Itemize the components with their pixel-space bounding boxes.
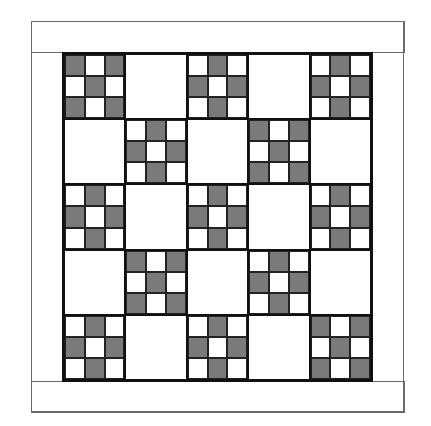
quilt-top-border-band [31, 21, 405, 53]
light-patch [85, 206, 105, 227]
dark-patch [311, 206, 331, 227]
dark-patch [269, 141, 289, 162]
light-patch [146, 293, 166, 314]
dark-patch [166, 293, 186, 314]
dark-patch [146, 120, 166, 141]
dark-patch [85, 358, 105, 379]
light-patch [208, 337, 228, 358]
dark-patch [350, 206, 370, 227]
plain-block [310, 119, 371, 184]
light-patch [85, 55, 105, 76]
dark-patch [85, 316, 105, 337]
nine-patch-block-plus [64, 315, 125, 380]
light-patch [126, 162, 146, 183]
plain-block [248, 184, 309, 249]
light-patch [208, 206, 228, 227]
dark-patch [126, 251, 146, 272]
light-patch [350, 55, 370, 76]
light-patch [188, 185, 208, 206]
light-patch [289, 251, 309, 272]
dark-patch [330, 337, 350, 358]
light-patch [65, 76, 85, 97]
quilt-block-grid [62, 52, 373, 382]
light-patch [311, 228, 331, 249]
plain-block [187, 250, 248, 315]
light-patch [227, 358, 247, 379]
dark-patch [208, 185, 228, 206]
nine-patch-block-plus [187, 315, 248, 380]
dark-patch [350, 316, 370, 337]
nine-patch-block-plus [187, 184, 248, 249]
dark-patch [330, 97, 350, 118]
nine-patch-block-x [64, 54, 125, 119]
light-patch [350, 97, 370, 118]
nine-patch-block-plus [187, 54, 248, 119]
light-patch [105, 358, 125, 379]
dark-patch [105, 206, 125, 227]
light-patch [289, 293, 309, 314]
dark-patch [65, 337, 85, 358]
plain-block [310, 250, 371, 315]
quilt-bottom-border-band [31, 381, 405, 413]
light-patch [350, 337, 370, 358]
plain-block [64, 250, 125, 315]
dark-patch [311, 76, 331, 97]
dark-patch [330, 228, 350, 249]
dark-patch [105, 55, 125, 76]
light-patch [146, 251, 166, 272]
dark-patch [65, 55, 85, 76]
light-patch [330, 358, 350, 379]
dark-patch [227, 337, 247, 358]
dark-patch [227, 76, 247, 97]
dark-patch [166, 141, 186, 162]
dark-patch [350, 76, 370, 97]
nine-patch-block-x [310, 315, 371, 380]
light-patch [289, 141, 309, 162]
light-patch [208, 76, 228, 97]
light-patch [85, 97, 105, 118]
dark-patch [166, 251, 186, 272]
dark-patch [65, 97, 85, 118]
dark-patch [208, 228, 228, 249]
light-patch [105, 76, 125, 97]
light-patch [330, 206, 350, 227]
light-patch [188, 316, 208, 337]
dark-patch [289, 162, 309, 183]
light-patch [188, 55, 208, 76]
nine-patch-block-plus [64, 184, 125, 249]
light-patch [311, 337, 331, 358]
light-patch [227, 228, 247, 249]
dark-patch [146, 272, 166, 293]
light-patch [249, 141, 269, 162]
light-patch [188, 97, 208, 118]
dark-patch [330, 55, 350, 76]
plain-block [125, 54, 186, 119]
dark-patch [289, 120, 309, 141]
light-patch [350, 228, 370, 249]
dark-patch [105, 97, 125, 118]
dark-patch [227, 206, 247, 227]
dark-patch [350, 358, 370, 379]
light-patch [227, 185, 247, 206]
dark-patch [330, 185, 350, 206]
dark-patch [269, 251, 289, 272]
light-patch [166, 120, 186, 141]
dark-patch [249, 162, 269, 183]
light-patch [166, 272, 186, 293]
light-patch [269, 272, 289, 293]
light-patch [105, 228, 125, 249]
light-patch [65, 358, 85, 379]
light-patch [311, 55, 331, 76]
dark-patch [208, 316, 228, 337]
nine-patch-block-plus [248, 250, 309, 315]
dark-patch [208, 358, 228, 379]
light-patch [227, 97, 247, 118]
light-patch [146, 141, 166, 162]
nine-patch-block-plus [310, 184, 371, 249]
light-patch [105, 185, 125, 206]
plain-block [125, 315, 186, 380]
light-patch [249, 293, 269, 314]
dark-patch [65, 206, 85, 227]
light-patch [126, 272, 146, 293]
dark-patch [126, 293, 146, 314]
